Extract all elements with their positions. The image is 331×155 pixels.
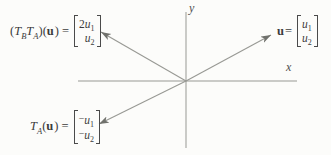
vector-tbta-u-arrow xyxy=(101,32,186,81)
label-tbta-u: (TBTA)(u) = 2u1 u2 xyxy=(10,15,101,47)
matrix-row: u2 xyxy=(85,31,95,45)
ta-expression: TA(u) = xyxy=(30,119,70,134)
matrix-row: −u1 xyxy=(79,112,94,127)
matrix-row: −u2 xyxy=(79,127,94,142)
matrix-row: 2u1 xyxy=(79,17,95,31)
tbta-matrix: 2u1 u2 xyxy=(74,15,101,47)
vector-ta-u-arrow xyxy=(99,81,186,124)
matrix-row: u1 xyxy=(302,17,312,31)
label-u: u= u1 u2 xyxy=(277,15,318,47)
u-expression: u= xyxy=(277,24,293,39)
u-matrix: u1 u2 xyxy=(297,15,318,47)
figure-canvas: y x (TBTA)(u) = 2u1 u2 u= u1 u2 TA(u) = … xyxy=(0,0,331,155)
y-axis-label: y xyxy=(189,1,194,16)
ta-matrix: −u1 −u2 xyxy=(74,110,100,144)
tbta-expression: (TBTA)(u) = xyxy=(10,24,70,39)
matrix-row: u2 xyxy=(302,31,312,45)
label-ta-u: TA(u) = −u1 −u2 xyxy=(30,110,100,144)
x-axis-label: x xyxy=(286,60,291,75)
vector-u-arrow xyxy=(186,35,271,81)
